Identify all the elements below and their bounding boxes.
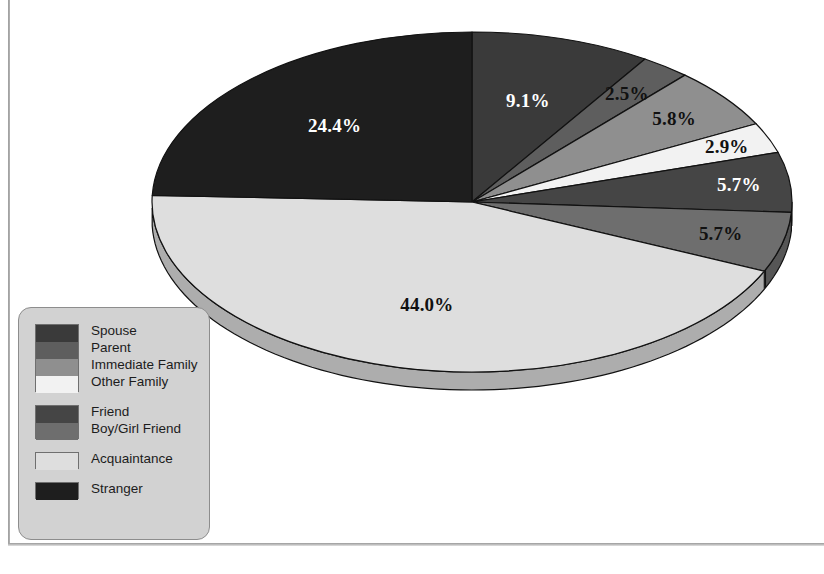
legend-swatch-immediate-family[interactable] [36, 359, 78, 376]
legend-swatch-stack [35, 324, 79, 392]
legend-label-stack: FriendBoy/Girl Friend [91, 403, 181, 437]
legend-item-acquaintance[interactable]: Acquaintance [91, 450, 173, 467]
chart-legend: SpouseParentImmediate FamilyOther Family… [18, 307, 210, 540]
legend-label-stack: Stranger [91, 480, 143, 497]
legend-item-boy-girl-friend[interactable]: Boy/Girl Friend [91, 420, 181, 437]
legend-swatch-stack [35, 482, 79, 499]
legend-item-other-family[interactable]: Other Family [91, 373, 198, 390]
legend-content: SpouseParentImmediate FamilyOther Family… [19, 308, 209, 539]
legend-swatch-other-family[interactable] [36, 376, 78, 393]
legend-swatch-stack [35, 452, 79, 469]
chart-page: 9.1%2.5%5.8%2.9%5.7%5.7%44.0%24.4% Spous… [0, 0, 824, 574]
legend-item-parent[interactable]: Parent [91, 339, 198, 356]
legend-item-immediate-family[interactable]: Immediate Family [91, 356, 198, 373]
legend-label-stack: SpouseParentImmediate FamilyOther Family [91, 322, 198, 390]
pie-top-face-layer [152, 32, 792, 372]
legend-item-friend[interactable]: Friend [91, 403, 181, 420]
legend-swatch-stack [35, 405, 79, 439]
legend-swatch-friend[interactable] [36, 406, 78, 423]
legend-swatch-boy-girl-friend[interactable] [36, 423, 78, 440]
legend-swatch-stranger[interactable] [36, 483, 78, 500]
legend-swatch-spouse[interactable] [36, 325, 78, 342]
legend-swatch-parent[interactable] [36, 342, 78, 359]
legend-swatch-acquaintance[interactable] [36, 453, 78, 470]
pie-slice-stranger[interactable] [152, 32, 472, 202]
legend-item-spouse[interactable]: Spouse [91, 322, 198, 339]
legend-label-stack: Acquaintance [91, 450, 173, 467]
legend-item-stranger[interactable]: Stranger [91, 480, 143, 497]
